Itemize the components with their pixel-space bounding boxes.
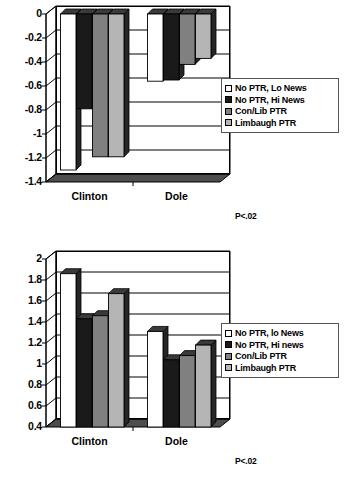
y-axis-tick-label: -1.2 [6, 152, 42, 162]
legend-swatch-icon [225, 364, 232, 371]
legend-item: No PTR, Hi news [225, 339, 334, 350]
y-axis-tick-label: -0.6 [6, 80, 42, 90]
legend-item-label: No PTR, Hi News [235, 95, 305, 105]
bar-dole-4 [196, 9, 217, 58]
y-axis-tick-label: -0.8 [6, 104, 42, 114]
p-value-annotation-bottom: P<.02 [235, 456, 256, 466]
y-axis-tick-label: 1.8 [6, 274, 42, 284]
x-axis-category-label: Clinton [46, 435, 133, 447]
y-axis-tick-label: 0.4 [6, 421, 42, 431]
y-axis-tick-label: 1 [6, 358, 42, 368]
legend-swatch-icon [225, 108, 232, 115]
legend-item: Con/Lib PTR [225, 351, 334, 362]
y-axis-tick-label: 0.6 [6, 400, 42, 410]
x-axis-category-label: Dole [133, 190, 220, 202]
y-axis-tick-label: 2 [6, 253, 42, 263]
legend-item-label: Limbaugh PTR [235, 118, 296, 128]
y-axis-tick-label: -0.2 [6, 32, 42, 42]
legend-item: No PTR, Lo News [225, 83, 334, 94]
y-axis-tick-label: -1 [6, 128, 42, 138]
chart-bottom: 21.81.61.41.210.80.60.4ClintonDole No PT… [0, 245, 348, 490]
bar-clinton-4 [109, 9, 130, 157]
y-axis-tick-label: 1.6 [6, 295, 42, 305]
legend-swatch-icon [225, 119, 232, 126]
p-value-annotation-top: P<.02 [235, 211, 256, 221]
x-axis-category-label: Clinton [46, 190, 133, 202]
legend-item-label: No PTR, lo News [235, 328, 304, 338]
legend-swatch-icon [225, 96, 232, 103]
legend-item-label: Limbaugh PTR [235, 363, 296, 373]
legend-item-label: No PTR, Lo News [235, 83, 307, 93]
legend-item-label: Con/Lib PTR [235, 351, 287, 361]
y-axis-tick-label: 0.8 [6, 379, 42, 389]
legend-item-label: No PTR, Hi news [235, 340, 304, 350]
legend-item: Con/Lib PTR [225, 106, 334, 117]
legend-swatch-icon [225, 85, 232, 92]
legend-item: Limbaugh PTR [225, 362, 334, 373]
legend-item: No PTR, lo News [225, 328, 334, 339]
legend-swatch-icon [225, 353, 232, 360]
legend-swatch-icon [225, 341, 232, 348]
legend-top: No PTR, Lo NewsNo PTR, Hi NewsCon/Lib PT… [221, 78, 339, 133]
y-axis-tick-label: -1.4 [6, 176, 42, 186]
legend-item: No PTR, Hi News [225, 94, 334, 105]
bar-dole-4 [196, 340, 217, 427]
bar-clinton-4 [109, 289, 130, 427]
y-axis-tick-label: -0.4 [6, 56, 42, 66]
y-axis-tick-label: 1.4 [6, 316, 42, 326]
legend-item-label: Con/Lib PTR [235, 106, 287, 116]
legend-bottom: No PTR, lo NewsNo PTR, Hi newsCon/Lib PT… [221, 323, 339, 378]
chart-top: 0-0.2-0.4-0.6-0.8-1-1.2-1.4ClintonDole N… [0, 0, 348, 245]
legend-swatch-icon [225, 330, 232, 337]
y-axis-tick-label: 0 [6, 8, 42, 18]
legend-item: Limbaugh PTR [225, 117, 334, 128]
y-axis-tick-label: 1.2 [6, 337, 42, 347]
x-axis-category-label: Dole [133, 435, 220, 447]
